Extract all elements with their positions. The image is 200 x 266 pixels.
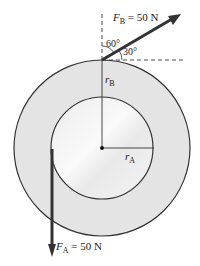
angle-60-label: 60° (106, 38, 120, 49)
force-a-label: FA = 50 N (55, 240, 102, 255)
force-a-arrowhead (48, 244, 56, 257)
force-b-arrowhead (168, 14, 181, 25)
pulley-diagram: FB = 50 N 60° 30° rB rA FA = 50 N (0, 0, 200, 266)
angle-30-label: 30° (123, 46, 137, 57)
center-point (100, 146, 104, 150)
force-b-label: FB = 50 N (112, 11, 159, 26)
